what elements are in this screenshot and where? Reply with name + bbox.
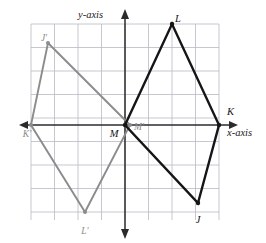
y-axis-label: y-axis — [78, 10, 103, 21]
vertex-label-l: L — [175, 14, 181, 25]
vertex-label-m: M — [110, 129, 119, 140]
vertex-label-k-prime: K' — [23, 130, 31, 140]
vertex-label-l-prime: L' — [81, 227, 88, 237]
figure-canvas: JKLMJ'K'L'M' y-axis x-axis — [0, 0, 266, 243]
vertex-label-k: K — [227, 107, 234, 118]
vertex-label-j: J — [196, 215, 201, 226]
vertex-label-j-prime: J' — [41, 34, 47, 44]
vertex-label-m-prime: M' — [134, 123, 144, 133]
x-axis-label: x-axis — [227, 128, 252, 139]
